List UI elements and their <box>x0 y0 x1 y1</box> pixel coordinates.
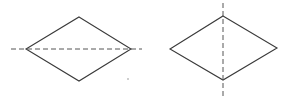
left-rhombus-group <box>11 17 142 81</box>
stray-dot <box>127 78 128 79</box>
right-rhombus-group <box>170 3 277 96</box>
diagram-canvas <box>0 0 288 102</box>
